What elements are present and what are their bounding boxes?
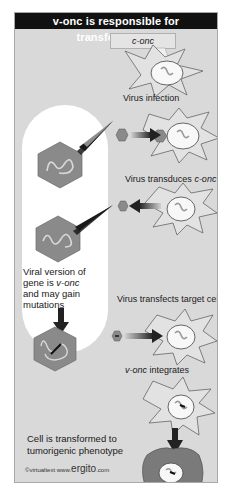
infection-arrow-icon xyxy=(131,128,161,142)
side-line-2-text: gene is xyxy=(23,277,56,288)
transfection-arrow-icon xyxy=(125,329,163,343)
side-line-1: Viral version of xyxy=(23,266,86,277)
release-arrow-icon xyxy=(129,199,161,213)
v-onc-term: v-onc xyxy=(125,365,147,375)
credit-prefix: ©virtualtext www. xyxy=(25,467,71,473)
viral-version-text: Viral version of gene is v-onc and may g… xyxy=(23,266,86,310)
result-line-1: Cell is transformed to xyxy=(27,433,123,445)
diagram-frame: v-onc is responsible for transformation … xyxy=(14,12,218,483)
side-line-3: and may gain xyxy=(23,288,86,299)
step-label-virus-infection: Virus infection xyxy=(123,93,179,103)
result-text: Cell is transformed to tumorigenic pheno… xyxy=(27,433,123,457)
step-label-v-onc-integrates: v-onc integrates xyxy=(125,365,189,375)
v-onc-term: v-onc xyxy=(56,277,79,288)
small-virus-icon xyxy=(115,128,129,142)
budding-virus-icon xyxy=(117,200,129,212)
result-line-2: tumorigenic phenotype xyxy=(27,445,123,457)
zoom-pointer-icon xyxy=(71,205,115,235)
side-line-2: gene is v-onc xyxy=(23,277,86,288)
mutated-virus-icon xyxy=(33,326,77,372)
step-text: integrates xyxy=(147,365,189,375)
host-cell-icon xyxy=(115,41,215,97)
step-label-virus-transfects: Virus transfects target cell xyxy=(117,294,218,304)
integrated-cell-icon xyxy=(143,377,215,435)
transformed-cell-icon xyxy=(141,445,205,483)
credit-suffix: .com xyxy=(96,467,109,473)
zoom-pointer-icon xyxy=(75,121,115,157)
transfecting-virus-icon xyxy=(111,330,123,342)
credit-line: ©virtualtext www.ergito.com xyxy=(25,463,109,474)
credit-brand: ergito xyxy=(71,463,96,474)
